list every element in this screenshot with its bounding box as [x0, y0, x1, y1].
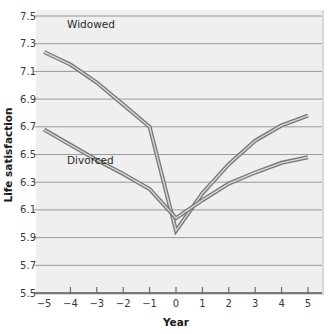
x-tick-label: −5 [37, 298, 52, 309]
x-tick-label: 1 [199, 298, 205, 309]
y-tick-label: 6.7 [20, 121, 36, 132]
y-tick-label: 6.9 [20, 94, 36, 105]
x-axis-title: Year [162, 316, 190, 328]
y-tick-label: 6.5 [20, 149, 36, 160]
y-axis-ticks: 5.55.75.96.16.36.56.76.97.17.37.5 [20, 11, 36, 299]
life-satisfaction-chart: 5.55.75.96.16.36.56.76.97.17.37.5 −5−4−3… [0, 0, 331, 334]
x-tick-label: 2 [226, 298, 232, 309]
x-tick-label: 0 [173, 298, 179, 309]
x-tick-label: −1 [142, 298, 157, 309]
x-tick-label: 3 [252, 298, 258, 309]
y-tick-label: 5.5 [20, 288, 36, 299]
plot-area [36, 10, 324, 295]
series-label-widowed: Widowed [67, 18, 115, 30]
y-tick-label: 7.1 [20, 66, 36, 77]
y-tick-label: 6.1 [20, 204, 36, 215]
x-tick-label: −2 [116, 298, 131, 309]
series-label-divorced: Divorced [67, 154, 114, 166]
x-tick-label: −3 [89, 298, 104, 309]
y-axis-title: Life satisfaction [2, 107, 14, 202]
x-tick-label: −4 [63, 298, 78, 309]
x-tick-label: 4 [278, 298, 284, 309]
y-tick-label: 7.3 [20, 38, 36, 49]
y-tick-label: 6.3 [20, 177, 36, 188]
y-tick-label: 7.5 [20, 11, 36, 22]
x-tick-label: 5 [305, 298, 311, 309]
y-tick-label: 5.9 [20, 232, 36, 243]
y-tick-label: 5.7 [20, 260, 36, 271]
